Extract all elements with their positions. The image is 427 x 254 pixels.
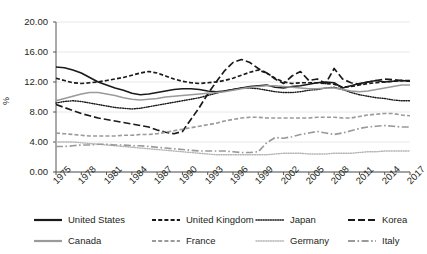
legend-label: United Kingdom — [186, 214, 254, 225]
legend-item-united-kingdom[interactable]: United Kingdom — [151, 214, 255, 225]
legend-item-korea[interactable]: Korea — [347, 214, 409, 225]
y-tick-label: 20.00 — [6, 17, 48, 26]
legend-item-canada[interactable]: Canada — [33, 235, 151, 246]
legend-swatch-icon — [33, 236, 63, 246]
y-tick-label: 12.00 — [6, 77, 48, 86]
series-line-germany — [56, 142, 410, 155]
legend-swatch-icon — [347, 236, 377, 246]
axis-lines — [56, 22, 410, 172]
legend-item-japan[interactable]: Japan — [255, 214, 347, 225]
legend-swatch-icon — [255, 236, 285, 246]
series-line-france — [56, 114, 410, 137]
y-tick-label: 0.00 — [6, 167, 48, 176]
legend-swatch-icon — [33, 215, 63, 225]
y-tick-label: 16.00 — [6, 47, 48, 56]
legend-swatch-icon — [347, 215, 377, 225]
series-line-italy — [56, 126, 410, 153]
legend-label: Korea — [382, 214, 407, 225]
legend-swatch-icon — [255, 215, 285, 225]
chart-legend: United StatesCanadaUnited KingdomFranceJ… — [33, 209, 409, 251]
legend-label: Canada — [68, 235, 101, 246]
legend-label: Japan — [290, 214, 316, 225]
legend-swatch-icon — [151, 215, 181, 225]
legend-label: Germany — [290, 235, 329, 246]
legend-label: United States — [68, 214, 125, 225]
legend-item-united-states[interactable]: United States — [33, 214, 151, 225]
y-tick-label: 8.00 — [6, 107, 48, 116]
legend-item-italy[interactable]: Italy — [347, 235, 409, 246]
series-line-korea — [56, 60, 410, 134]
legend-label: Italy — [382, 235, 399, 246]
series-line-canada — [56, 85, 410, 101]
legend-label: France — [186, 235, 216, 246]
legend-item-france[interactable]: France — [151, 235, 255, 246]
legend-item-germany[interactable]: Germany — [255, 235, 347, 246]
legend-swatch-icon — [151, 236, 181, 246]
y-tick-label: 4.00 — [6, 137, 48, 146]
